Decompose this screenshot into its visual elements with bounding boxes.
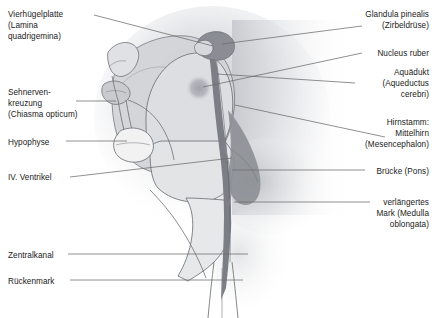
label-line: IV. Ventrikel [8, 172, 52, 183]
label-line: Glandula pinealis [365, 9, 429, 20]
brainstem-illustration [0, 0, 435, 318]
label-line: (Aqueductus [382, 78, 429, 89]
label-hypophyse: Hypophyse [8, 137, 49, 148]
label-hirnstamm-mittelhirn: Hirnstamm:Mittelhirn(Mesencephalon) [365, 117, 429, 151]
label-rueckenmark: Rückenmark [8, 276, 54, 287]
label-line: Sehnerven- [8, 87, 78, 98]
label-line: oblongata) [376, 219, 429, 230]
label-verlaengertes-mark: verlängertesMark (Medullaoblongata) [376, 197, 429, 231]
label-line: Hypophyse [8, 137, 49, 148]
label-line: (Chiasma opticum) [8, 109, 78, 120]
label-line: cerebri) [382, 89, 429, 100]
label-line: Mittelhirn [365, 128, 429, 139]
label-iv-ventrikel: IV. Ventrikel [8, 172, 52, 183]
label-line: Hirnstamm: [365, 117, 429, 128]
label-line: Nucleus ruber [377, 48, 429, 59]
label-aquaedukt: Aquädukt(Aqueductuscerebri) [382, 67, 429, 101]
label-glandula-pinealis: Glandula pinealis(Zirbeldrüse) [365, 9, 429, 31]
label-line: Vierhügelplatte [8, 9, 63, 20]
label-line: Zentralkanal [8, 250, 54, 261]
hypophysis-gland [114, 128, 154, 162]
label-line: kreuzung [8, 98, 78, 109]
label-line: Rückenmark [8, 276, 54, 287]
label-nucleus-ruber: Nucleus ruber [377, 48, 429, 59]
nucleus-ruber [187, 76, 212, 101]
label-line: (Zirbeldrüse) [365, 20, 429, 31]
label-line: Aquädukt [382, 67, 429, 78]
label-line: (Lamina [8, 20, 63, 31]
label-line: Brücke (Pons) [376, 166, 429, 177]
label-line: (Mesencephalon) [365, 139, 429, 150]
anatomical-figure: Vierhügelplatte(Laminaquadrigemina)Sehne… [0, 0, 435, 318]
label-line: quadrigemina) [8, 31, 63, 42]
label-zentralkanal: Zentralkanal [8, 250, 54, 261]
label-bruecke-pons: Brücke (Pons) [376, 166, 429, 177]
label-vierhuegelplatte: Vierhügelplatte(Laminaquadrigemina) [8, 9, 63, 43]
label-line: verlängertes [376, 197, 429, 208]
label-sehnervenkreuzung: Sehnerven-kreuzung(Chiasma opticum) [8, 87, 78, 121]
label-line: Mark (Medulla [376, 208, 429, 219]
